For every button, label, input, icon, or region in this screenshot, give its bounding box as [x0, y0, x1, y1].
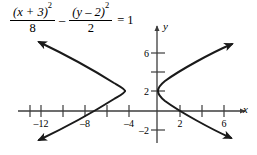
hyperbola-figure: (x + 3)2 8 – (y – 2)2 2 = 1 x y –12 –8 –…: [0, 0, 257, 155]
equation-right-hand-side: 1: [127, 14, 133, 27]
x-tick-label-neg12: –12: [30, 118, 52, 129]
first-fraction-denominator: 8: [26, 21, 38, 35]
second-numerator-base: (y – 2): [72, 5, 105, 19]
first-fraction-numerator: (x + 3)2: [10, 6, 55, 20]
equation-label: (x + 3)2 8 – (y – 2)2 2 = 1: [8, 6, 134, 34]
hyperbola-right-branch-upper: [158, 44, 232, 91]
hyperbola-left-branch-upper: [39, 42, 125, 91]
first-numerator-base: (x + 3): [13, 5, 48, 19]
hyperbola-left-branch: [39, 91, 125, 140]
second-fraction-denominator: 2: [85, 21, 97, 35]
x-tick-label-6: 6: [216, 118, 232, 129]
x-tick-label-2: 2: [172, 118, 188, 129]
x-tick-label-neg8: –8: [74, 118, 96, 129]
first-fraction: (x + 3)2 8: [10, 6, 55, 34]
second-fraction-numerator: (y – 2)2: [69, 6, 112, 20]
first-numerator-exponent: 2: [48, 0, 52, 10]
y-tick-label-2: 2: [136, 86, 149, 97]
y-tick-label-6: 6: [136, 48, 149, 59]
equation-equals-sign: =: [117, 14, 124, 27]
y-tick-label-neg2: –2: [130, 125, 149, 136]
x-axis-label: x: [243, 103, 248, 115]
second-numerator-exponent: 2: [105, 0, 109, 10]
equation-expression: (x + 3)2 8 – (y – 2)2 2 = 1: [8, 6, 134, 34]
hyperbola-right-branch: [158, 91, 231, 138]
equation-minus-operator: –: [59, 14, 65, 27]
y-axis-label: y: [163, 20, 168, 32]
second-fraction: (y – 2)2 2: [69, 6, 112, 34]
